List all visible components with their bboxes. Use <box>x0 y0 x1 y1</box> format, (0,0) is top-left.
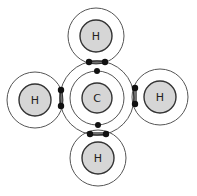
hydrogen-atom-top: H <box>68 8 124 64</box>
bond-electron <box>103 131 109 137</box>
hydrogen-atom-right: H <box>132 69 188 125</box>
bond-electron <box>58 103 64 109</box>
bond-electron <box>132 101 138 107</box>
hydrogen-label: H <box>156 91 164 104</box>
bond-electron <box>58 87 64 93</box>
bond-electron <box>86 59 92 65</box>
hydrogen-label: H <box>94 152 102 165</box>
hydrogen-label: H <box>31 94 39 107</box>
bond-electron <box>132 85 138 91</box>
inner-electron-top <box>94 68 100 74</box>
carbon-label: C <box>93 92 101 105</box>
bond-electron <box>102 59 108 65</box>
carbon-atom: C <box>60 61 134 135</box>
bond-right <box>132 85 138 107</box>
hydrogen-label: H <box>92 30 100 43</box>
inner-electron-bottom <box>95 122 101 128</box>
hydrogen-atom-bottom: H <box>70 130 126 186</box>
bond-bottom <box>87 131 109 137</box>
methane-electron-diagram: C H H H H <box>0 0 197 196</box>
bond-electron <box>87 131 93 137</box>
hydrogen-atom-left: H <box>7 72 63 128</box>
